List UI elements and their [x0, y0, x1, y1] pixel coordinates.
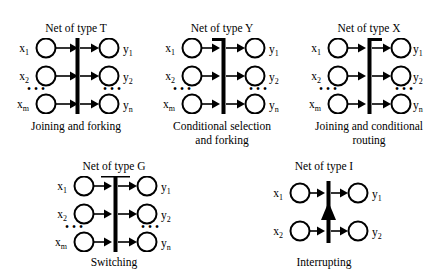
ellipsis-output: • • • — [249, 83, 267, 95]
figure-canvas: Net of type T — [0, 0, 442, 280]
ellipsis-output: • • • — [141, 221, 159, 233]
output-place-n — [138, 233, 157, 252]
net-title-G: Net of type G — [38, 160, 190, 173]
output-label-1: y1 — [269, 43, 279, 58]
input-label-1: x1 — [273, 187, 283, 202]
ellipsis-output: • • • — [395, 83, 413, 95]
input-arcs — [94, 182, 112, 247]
caption-line: Conditional selection — [148, 120, 296, 134]
output-place-n — [100, 95, 119, 114]
net-graphic-G: • • • • • • x1 x2 xm y1 y2 yn — [46, 176, 186, 252]
input-label-m: xm — [17, 98, 30, 113]
input-place-1 — [37, 39, 56, 58]
output-label-1: y1 — [123, 43, 133, 58]
net-graphic-Y: • • • • • • x1 x2 xm y1 y2 yn — [154, 38, 294, 114]
caption-line: and forking — [148, 134, 296, 148]
output-arcs — [331, 189, 348, 236]
net-title-X: Net of type X — [296, 22, 442, 35]
ellipsis-input: • • • — [319, 83, 337, 95]
output-label-2: y2 — [269, 71, 279, 86]
input-label-1: x1 — [165, 42, 175, 57]
input-arcs — [202, 44, 220, 109]
output-place-2 — [349, 222, 368, 241]
output-place-1 — [246, 39, 265, 58]
transition-bar-nub-right — [371, 38, 382, 41]
input-place-m — [37, 95, 56, 114]
transition-bar-nub-left — [212, 38, 222, 41]
net-caption-I: Interrupting — [248, 256, 400, 270]
caption-line: routing — [296, 134, 442, 148]
ellipsis-input: • • • — [27, 83, 45, 95]
input-label-1: x1 — [19, 42, 29, 57]
output-label-1: y1 — [413, 43, 423, 58]
net-graphic-T: • • • • • • x1 x2 xm y1 y2 yn — [8, 38, 148, 114]
ellipsis-input: • • • — [65, 221, 83, 233]
input-arcs — [310, 189, 325, 236]
interrupt-arrow-up-icon — [321, 202, 336, 220]
transition-bar — [114, 176, 118, 252]
caption-line: Switching — [38, 256, 190, 270]
output-label-n: yn — [123, 99, 133, 114]
output-label-2: y2 — [413, 71, 423, 86]
output-place-n — [392, 95, 411, 114]
output-label-2: y2 — [372, 226, 382, 241]
input-label-m: xm — [55, 236, 68, 251]
output-label-n: yn — [269, 99, 279, 114]
net-caption-G: Switching — [38, 256, 190, 270]
input-place-m — [75, 233, 94, 252]
output-place-1 — [349, 184, 368, 203]
input-place-1 — [329, 39, 348, 58]
caption-line: Joining and conditional — [296, 120, 442, 134]
input-label-m: xm — [309, 98, 322, 113]
output-label-2: y2 — [161, 209, 171, 224]
input-place-m — [329, 95, 348, 114]
output-place-n — [246, 95, 265, 114]
net-diagram-I: Net of type I x1 x2 y — [248, 160, 400, 272]
net-title-Y: Net of type Y — [148, 22, 296, 35]
output-label-2: y2 — [123, 71, 133, 86]
input-arcs — [348, 44, 366, 109]
output-label-1: y1 — [372, 188, 382, 203]
input-place-1 — [183, 39, 202, 58]
net-graphic-X: • • • • • • x1 x2 xm y1 y2 yn — [300, 38, 440, 114]
input-label-1: x1 — [57, 180, 67, 195]
net-caption-X: Joining and conditional routing — [296, 120, 442, 147]
input-place-1 — [75, 177, 94, 196]
output-place-1 — [392, 39, 411, 58]
output-place-1 — [138, 177, 157, 196]
input-label-2: x2 — [311, 70, 321, 85]
input-arcs — [56, 44, 78, 109]
output-arcs — [372, 44, 391, 109]
output-arcs — [226, 44, 245, 109]
output-place-1 — [100, 39, 119, 58]
net-graphic-I: x1 x2 y1 y2 — [262, 178, 392, 250]
input-place-m — [183, 95, 202, 114]
transition-bar — [368, 38, 372, 114]
output-label-n: yn — [413, 99, 423, 114]
ellipsis-output: • • • — [103, 83, 121, 95]
output-arcs — [80, 44, 99, 109]
input-label-1: x1 — [311, 42, 321, 57]
net-diagram-Y: Net of type Y — [148, 22, 296, 152]
caption-line: Joining and forking — [0, 120, 152, 134]
input-place-2 — [291, 222, 310, 241]
input-label-2: x2 — [19, 70, 29, 85]
net-title-I: Net of type I — [248, 160, 400, 173]
net-caption-Y: Conditional selection and forking — [148, 120, 296, 147]
net-diagram-T: Net of type T — [0, 22, 152, 138]
input-label-2: x2 — [165, 70, 175, 85]
output-arcs — [118, 182, 137, 247]
output-label-1: y1 — [161, 181, 171, 196]
input-label-2: x2 — [57, 208, 67, 223]
net-caption-T: Joining and forking — [0, 120, 152, 134]
ellipsis-input: • • • — [173, 83, 191, 95]
transition-bar — [222, 38, 226, 114]
caption-line: Interrupting — [248, 256, 400, 270]
input-label-m: xm — [163, 98, 176, 113]
input-label-2: x2 — [273, 225, 283, 240]
net-diagram-G: Net of type G — [38, 160, 190, 272]
transition-bar — [76, 38, 80, 114]
transition-bar-crossbar — [101, 176, 130, 178]
net-diagram-X: Net of type X — [296, 22, 442, 152]
net-title-T: Net of type T — [0, 22, 152, 35]
